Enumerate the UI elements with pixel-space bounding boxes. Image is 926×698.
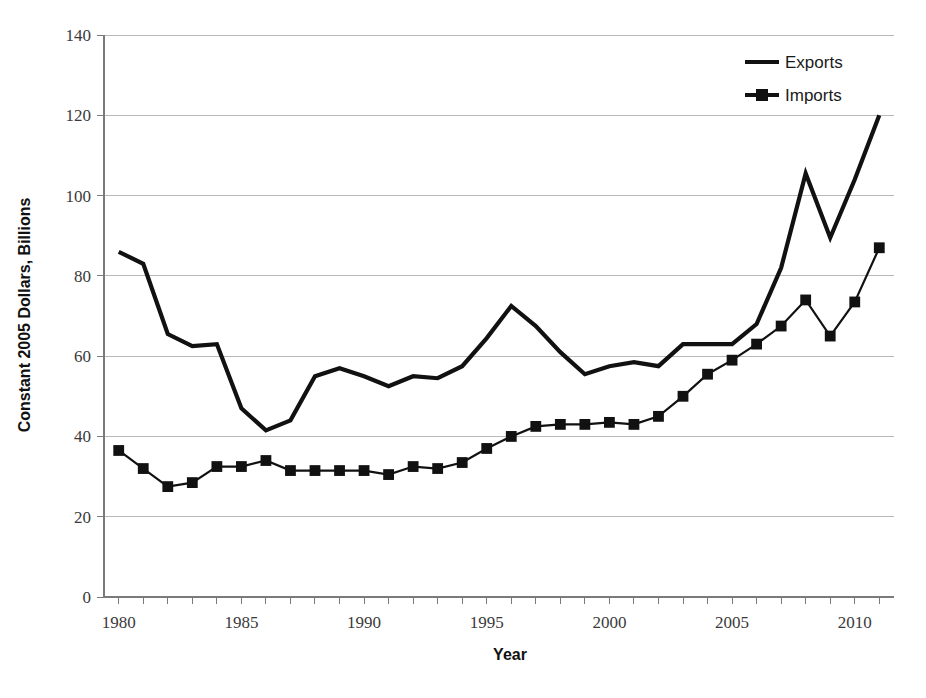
chart-container: 020406080100120140 198019851990199520002… bbox=[0, 0, 926, 698]
legend-label-exports: Exports bbox=[785, 53, 843, 72]
data-point-marker-imports bbox=[751, 339, 762, 350]
y-tick-label: 120 bbox=[66, 106, 92, 125]
x-tick-marks-group bbox=[119, 597, 880, 604]
data-point-marker-imports bbox=[334, 465, 345, 476]
axis-lines-group bbox=[104, 35, 894, 597]
y-tick-label: 20 bbox=[74, 508, 91, 527]
data-point-marker-imports bbox=[162, 481, 173, 492]
x-tick-label: 2005 bbox=[715, 613, 749, 632]
data-point-marker-imports bbox=[285, 465, 296, 476]
data-point-marker-imports bbox=[629, 419, 640, 430]
series-line-imports bbox=[119, 248, 880, 487]
data-point-marker-imports bbox=[727, 355, 738, 366]
data-point-marker-imports bbox=[211, 461, 222, 472]
data-point-marker-imports bbox=[800, 295, 811, 306]
data-point-marker-imports bbox=[236, 461, 247, 472]
data-point-marker-imports bbox=[874, 242, 885, 253]
data-point-marker-imports bbox=[702, 369, 713, 380]
data-point-marker-imports bbox=[359, 465, 370, 476]
y-axis-title: Constant 2005 Dollars, Billions bbox=[16, 198, 33, 433]
series-line-exports bbox=[119, 115, 880, 430]
data-point-marker-imports bbox=[579, 419, 590, 430]
y-tick-label: 40 bbox=[74, 427, 91, 446]
legend-label-imports: Imports bbox=[785, 86, 842, 105]
data-point-marker-imports bbox=[261, 455, 272, 466]
chart-legend: ExportsImports bbox=[745, 53, 843, 105]
data-point-marker-imports bbox=[776, 321, 787, 332]
x-tick-label: 2010 bbox=[838, 613, 872, 632]
x-axis-title: Year bbox=[493, 646, 527, 663]
data-point-marker-imports bbox=[187, 477, 198, 488]
y-tick-marks-group bbox=[97, 35, 104, 597]
data-point-marker-imports bbox=[555, 419, 566, 430]
y-tick-label: 0 bbox=[83, 588, 92, 607]
x-axis-tick-labels: 1980198519901995200020052010 bbox=[102, 613, 872, 632]
data-series-group bbox=[113, 115, 884, 492]
x-tick-label: 2000 bbox=[592, 613, 626, 632]
y-tick-label: 140 bbox=[66, 26, 92, 45]
y-tick-label: 60 bbox=[74, 347, 91, 366]
data-point-marker-imports bbox=[310, 465, 321, 476]
data-point-marker-imports bbox=[506, 431, 517, 442]
data-point-marker-imports bbox=[383, 469, 394, 480]
data-point-marker-imports bbox=[530, 421, 541, 432]
data-point-marker-imports bbox=[457, 457, 468, 468]
data-point-marker-imports bbox=[678, 391, 689, 402]
x-tick-label: 1985 bbox=[224, 613, 258, 632]
y-tick-label: 80 bbox=[74, 267, 91, 286]
data-point-marker-imports bbox=[653, 411, 664, 422]
line-chart: 020406080100120140 198019851990199520002… bbox=[0, 0, 926, 698]
data-point-marker-imports bbox=[849, 297, 860, 308]
data-point-marker-imports bbox=[113, 445, 124, 456]
x-tick-label: 1990 bbox=[347, 613, 381, 632]
data-point-marker-imports bbox=[481, 443, 492, 454]
y-tick-label: 100 bbox=[66, 187, 92, 206]
data-point-marker-imports bbox=[138, 463, 149, 474]
legend-square-marker bbox=[756, 89, 768, 101]
y-axis-tick-labels: 020406080100120140 bbox=[66, 26, 92, 607]
x-tick-label: 1995 bbox=[470, 613, 504, 632]
data-point-marker-imports bbox=[432, 463, 443, 474]
data-point-marker-imports bbox=[604, 417, 615, 428]
figure-caption-strip bbox=[0, 686, 926, 698]
data-point-marker-imports bbox=[408, 461, 419, 472]
x-tick-label: 1980 bbox=[102, 613, 136, 632]
data-point-marker-imports bbox=[825, 331, 836, 342]
